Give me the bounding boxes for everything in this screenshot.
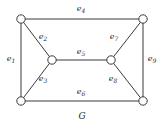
edge-label-subscript: 1: [11, 57, 15, 64]
edge-label-e4: e4: [77, 5, 86, 13]
bottom-right-vertex: [139, 97, 147, 105]
graph-diagram: [0, 0, 164, 126]
edge-label-subscript: 5: [81, 50, 85, 57]
edge-label-e3: e3: [39, 75, 48, 83]
edge-label-subscript: 7: [114, 35, 118, 42]
edge-label-e8: e8: [109, 75, 118, 83]
edge-label-e1: e1: [7, 55, 16, 63]
edge-label-subscript: 6: [81, 90, 85, 97]
top-left-vertex: [17, 15, 25, 23]
edge-label-e9: e9: [148, 55, 157, 63]
top-right-vertex: [139, 15, 147, 23]
edge-label-e5: e5: [77, 48, 86, 56]
edge-label-subscript: 8: [113, 77, 117, 84]
edge-label-subscript: 9: [152, 57, 156, 64]
bottom-left-vertex: [17, 97, 25, 105]
graph-figure: e1e2e3e4e5e6e7e8e9 G: [0, 0, 164, 126]
edge-label-e7: e7: [110, 33, 119, 41]
edge-label-e6: e6: [77, 88, 86, 96]
mid-right-vertex: [107, 56, 115, 64]
mid-left-vertex: [48, 56, 56, 64]
edge-label-subscript: 4: [81, 7, 85, 14]
edge-label-e2: e2: [39, 33, 48, 41]
edge-label-subscript: 3: [43, 77, 47, 84]
edge-label-subscript: 2: [43, 35, 47, 42]
graph-caption: G: [78, 111, 85, 121]
